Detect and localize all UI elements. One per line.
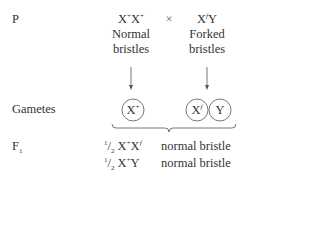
gamete-male-y: Y	[215, 104, 224, 117]
gamete-male-x: Xf	[192, 104, 203, 117]
offspring-phenotype-1: normal bristle	[161, 140, 231, 153]
offspring-genotype-2: 1/2 X+Y	[104, 157, 140, 170]
gamete-female: X+	[127, 104, 140, 117]
arrow-down-icon	[129, 67, 133, 90]
brace-icon	[112, 124, 236, 132]
offspring-genotype-1: 1/2 X+Xf	[104, 140, 142, 153]
arrow-down-icon	[205, 67, 209, 90]
offspring-phenotype-2: normal bristle	[161, 157, 231, 170]
